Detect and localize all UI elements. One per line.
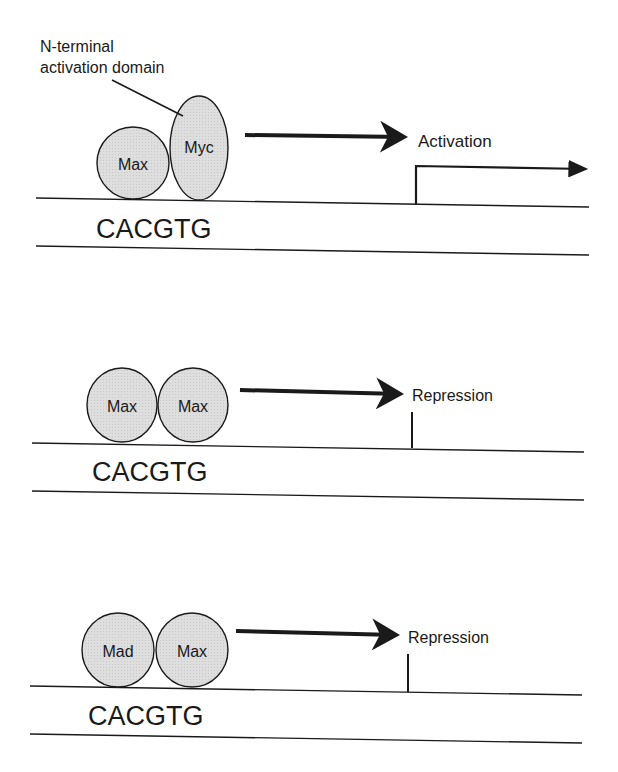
myc-max-mad-diagram: Max Myc N-terminal activation domain Act… (0, 0, 618, 772)
annotation-line2: activation domain (40, 59, 165, 76)
effect-arrow (245, 135, 404, 137)
mad-label: Mad (102, 643, 133, 660)
annotation-line1: N-terminal (40, 38, 114, 55)
outcome-label: Repression (412, 387, 493, 404)
dna-sequence: CACGTG (88, 701, 204, 731)
dna-sequence: CACGTG (96, 214, 212, 244)
outcome-label: Repression (408, 629, 489, 646)
effect-arrow (240, 390, 400, 394)
dna-strand-bottom (30, 734, 582, 743)
dna-strand-top (32, 443, 584, 452)
dna-strand-bottom (36, 246, 589, 255)
effect-arrow (236, 631, 396, 635)
panel-mad-max-repression: Mad Max Repression CACGTG (30, 613, 582, 743)
max-label: Max (107, 398, 137, 415)
dna-sequence: CACGTG (92, 457, 208, 487)
annotation-leader-line (112, 80, 183, 116)
panel-myc-max-activation: Max Myc N-terminal activation domain Act… (36, 38, 589, 255)
panel-max-max-repression: Max Max Repression CACGTG (32, 368, 584, 500)
dna-strand-bottom (32, 491, 584, 500)
max-label: Max (118, 156, 148, 173)
transcription-start-arrow (416, 166, 586, 204)
max-label: Max (177, 643, 207, 660)
max-label: Max (178, 398, 208, 415)
dna-strand-top (36, 198, 589, 207)
myc-label: Myc (184, 139, 213, 156)
outcome-label: Activation (418, 132, 492, 151)
